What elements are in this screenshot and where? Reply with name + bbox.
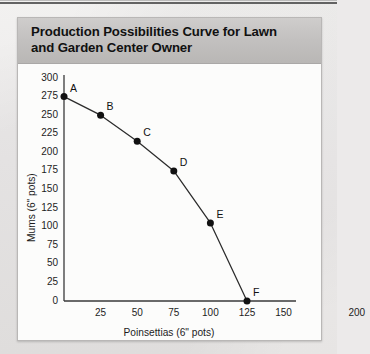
x-tick-label: 150 xyxy=(264,307,304,318)
chart-title-line-2: and Garden Center Owner xyxy=(31,40,192,55)
data-point-label-f: F xyxy=(253,286,259,298)
y-tick-label: 50 xyxy=(24,257,58,268)
y-tick-label: 75 xyxy=(24,239,58,250)
data-point-label-b: B xyxy=(107,100,114,112)
data-point-label-e: E xyxy=(216,208,223,220)
data-point-label-c: C xyxy=(143,126,151,138)
y-tick-label: 300 xyxy=(24,72,58,83)
page-top-rule xyxy=(0,2,337,4)
chart-title-band: Production Possibilities Curve for Lawn … xyxy=(18,18,321,64)
y-tick-label: 250 xyxy=(24,109,58,120)
x-tick-label: 100 xyxy=(190,307,230,318)
y-tick-label: 275 xyxy=(24,90,58,101)
y-tick-label: 150 xyxy=(24,183,58,194)
chart-title-line-1: Production Possibilities Curve for Lawn xyxy=(31,24,277,39)
x-tick-label: 125 xyxy=(227,307,267,318)
data-point-label-a: A xyxy=(70,82,77,94)
chart-title: Production Possibilities Curve for Lawn … xyxy=(31,24,309,57)
plot-area-background xyxy=(18,64,321,339)
y-tick-label: 200 xyxy=(24,146,58,157)
y-tick-label: 100 xyxy=(24,220,58,231)
x-tick-label: 75 xyxy=(154,307,194,318)
y-tick-label: 25 xyxy=(24,276,58,287)
x-tick-label: 50 xyxy=(117,307,157,318)
x-axis-title: Poinsettias (6" pots) xyxy=(24,327,314,338)
y-tick-label: 125 xyxy=(24,202,58,213)
x-tick-label: 25 xyxy=(81,307,121,318)
y-tick-label: 0 xyxy=(24,295,58,306)
x-tick-label: 200 xyxy=(337,307,370,318)
y-tick-label: 175 xyxy=(24,164,58,175)
y-tick-label: 225 xyxy=(24,127,58,138)
chart-figure: Production Possibilities Curve for Lawn … xyxy=(17,17,322,341)
data-point-label-d: D xyxy=(180,156,188,168)
page-top-hairline xyxy=(0,0,337,1)
